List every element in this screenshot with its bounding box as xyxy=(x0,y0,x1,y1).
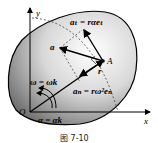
rigid-body-diagram: y x O A r a aₜ = rαeₜ aₙ = rω²eₙ ω = ωk … xyxy=(0,0,158,143)
y-axis-label: y xyxy=(35,8,40,18)
a-label: a xyxy=(50,42,55,52)
normal-accel-label: aₙ = rω²eₙ xyxy=(73,86,112,96)
origin-label: O xyxy=(19,107,26,117)
point-A xyxy=(101,59,105,63)
tangential-accel-label: aₜ = rαeₜ xyxy=(70,17,103,27)
figure-caption: 图 7-10 xyxy=(60,134,89,143)
x-axis-label: x xyxy=(143,116,148,126)
angular-velocity-label: ω = ωk xyxy=(30,77,58,87)
point-A-label: A xyxy=(106,56,113,66)
rigid-body-shape xyxy=(8,11,136,124)
r-label: r xyxy=(98,66,102,76)
angular-accel-label: α = αk xyxy=(38,115,63,125)
